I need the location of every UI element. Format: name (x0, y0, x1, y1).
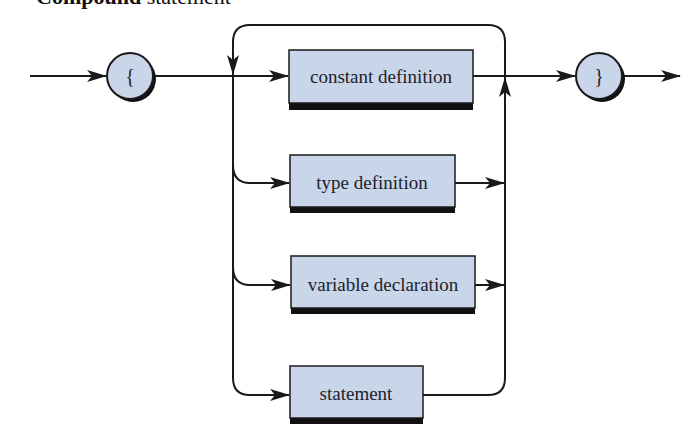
node-label: variable declaration (308, 274, 459, 295)
node-statement: statement (290, 366, 423, 424)
node-label: statement (320, 383, 394, 404)
node-label: constant definition (310, 66, 452, 87)
left-rail-path (233, 76, 289, 395)
right-rail-path (423, 76, 505, 395)
node-variable-declaration: variable declaration (291, 256, 475, 314)
syntax-diagram: { } constant definition type definition … (0, 0, 700, 447)
branch-variable-path (233, 267, 290, 285)
open-brace-label: { (125, 65, 135, 87)
open-brace-terminal: { (107, 53, 156, 102)
node-label: type definition (316, 172, 428, 193)
node-constant-definition: constant definition (289, 50, 473, 110)
close-brace-terminal: } (576, 53, 625, 102)
close-brace-label: } (594, 65, 604, 87)
node-type-definition: type definition (290, 155, 455, 213)
branch-type-path (233, 165, 289, 183)
